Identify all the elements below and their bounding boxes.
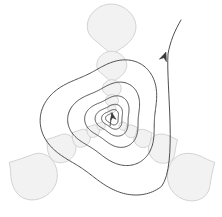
figure-root: Self-similar logarithmic spiral with thr… xyxy=(0,0,222,217)
blob-mid-bottom-left xyxy=(46,134,76,163)
spiral-diagram-svg: Self-similar logarithmic spiral with thr… xyxy=(0,0,222,217)
blob-core-bottom-right xyxy=(119,122,127,130)
blob-mid-bottom-right xyxy=(148,134,177,163)
